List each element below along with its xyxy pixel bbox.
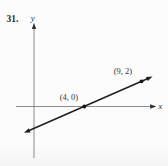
point-marker-9-2 — [140, 79, 144, 83]
textbook-figure-problem-31: 31. y x (4, 0) (9, 2) — [0, 0, 168, 166]
line-upper-right-arrowhead-icon — [146, 77, 153, 82]
point-label-4-0: (4, 0) — [60, 92, 79, 102]
x-axis-arrowhead-icon — [150, 104, 156, 108]
line-lower-left-arrowhead-icon — [24, 128, 31, 133]
graphed-line — [29, 79, 148, 131]
y-axis-arrowhead-icon — [32, 23, 36, 29]
x-axis-label: x — [157, 101, 162, 111]
point-marker-4-0 — [82, 105, 86, 109]
problem-number: 31. — [7, 14, 19, 24]
y-axis-label: y — [30, 13, 35, 23]
point-label-9-2: (9, 2) — [114, 66, 133, 76]
coordinate-plane-graph: 31. y x (4, 0) (9, 2) — [0, 0, 168, 166]
